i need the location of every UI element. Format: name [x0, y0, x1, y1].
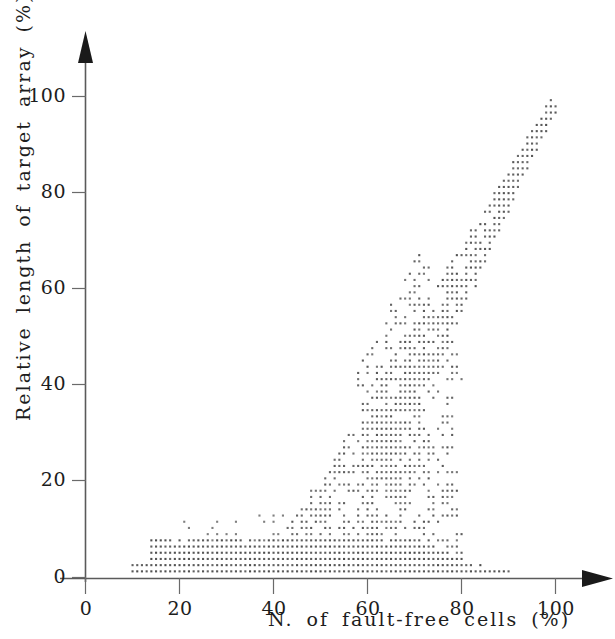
y-tick-label-0: 0	[10, 565, 66, 587]
data-points-layer	[132, 99, 557, 572]
scatter-plot-figure: 100 80 60 40 20 0 0 20 40 60 80 100 N. o…	[0, 0, 615, 639]
x-axis-title: N. of fault-free cells (%)	[268, 608, 570, 630]
plot-canvas	[0, 0, 615, 639]
y-axis-title-wrapper: Relative length of target array (%)	[12, 1, 42, 421]
y-tick-marks	[72, 97, 86, 578]
y-tick-label-20: 20	[10, 468, 66, 490]
x-tick-marks	[86, 578, 556, 594]
y-axis-arrow-icon	[78, 31, 93, 63]
x-tick-label-0: 0	[56, 597, 116, 619]
y-axis-title: Relative length of target array (%)	[12, 1, 34, 421]
x-tick-label-20: 20	[150, 597, 210, 619]
x-axis-arrow-icon	[582, 570, 613, 587]
